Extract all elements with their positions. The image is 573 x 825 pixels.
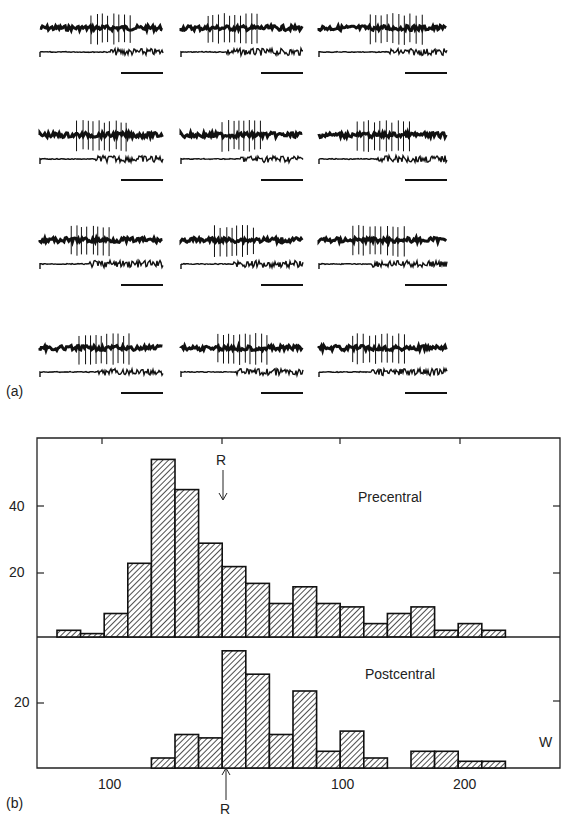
- postcentral-bar: [246, 674, 270, 768]
- trace-pair: [181, 333, 303, 393]
- precentral-bar: [364, 624, 388, 637]
- postcentral-bar: [222, 651, 246, 768]
- postcentral-bar: [458, 761, 482, 768]
- w-marker: W: [539, 734, 552, 750]
- precentral-bar: [151, 459, 175, 637]
- x-tick-100-right: 100: [331, 776, 354, 792]
- y-tick-20-top: 20: [9, 564, 25, 580]
- postcentral-bar: [175, 735, 199, 769]
- precentral-bar: [458, 624, 482, 637]
- precentral-bar: [411, 607, 435, 637]
- precentral-bar: [317, 604, 341, 638]
- postcentral-bar: [482, 761, 506, 768]
- panel-a-traces: [40, 13, 447, 393]
- panel-b-label: (b): [6, 795, 23, 811]
- precentral-bar: [340, 607, 364, 637]
- precentral-label: Precentral: [358, 489, 422, 505]
- precentral-bar: [482, 630, 506, 637]
- precentral-bar: [387, 614, 411, 637]
- r-marker-top: R: [216, 452, 226, 468]
- precentral-bar: [222, 567, 246, 637]
- figure: [0, 0, 573, 825]
- precentral-bar: [199, 543, 223, 637]
- trace-pair: [319, 333, 447, 393]
- trace-pair: [319, 13, 447, 73]
- postcentral-bar: [435, 751, 459, 768]
- precentral-bar: [104, 614, 128, 637]
- postcentral-bar: [269, 735, 293, 769]
- precentral-bar: [293, 587, 317, 637]
- y-tick-20-bottom: 20: [14, 694, 30, 710]
- precentral-bar: [246, 583, 270, 637]
- trace-pair: [40, 120, 163, 180]
- trace-pair: [40, 333, 163, 393]
- trace-pair: [319, 225, 447, 285]
- postcentral-label: Postcentral: [365, 666, 435, 682]
- trace-pair: [181, 225, 303, 285]
- postcentral-bar: [317, 751, 341, 768]
- precentral-bar: [57, 630, 81, 637]
- panel-a-label: (a): [6, 383, 23, 399]
- x-tick-100-left: 100: [98, 776, 121, 792]
- trace-pair: [319, 120, 447, 180]
- trace-pair: [181, 120, 303, 180]
- r-marker-bottom: R: [220, 801, 230, 817]
- postcentral-bar: [293, 691, 317, 768]
- x-tick-200: 200: [453, 776, 476, 792]
- precentral-bar: [81, 634, 105, 637]
- precentral-bar: [269, 604, 293, 638]
- postcentral-bar: [411, 751, 435, 768]
- trace-pair: [40, 14, 163, 73]
- y-tick-40: 40: [9, 498, 25, 514]
- panel-b-histograms: [37, 438, 560, 800]
- precentral-bar: [175, 490, 199, 637]
- trace-pair: [181, 13, 303, 73]
- postcentral-bar: [151, 758, 175, 768]
- postcentral-bar: [340, 731, 364, 768]
- postcentral-bar: [364, 758, 388, 768]
- precentral-bar: [128, 563, 152, 637]
- precentral-bar: [435, 630, 459, 637]
- postcentral-bar: [199, 738, 223, 768]
- trace-pair: [40, 225, 163, 285]
